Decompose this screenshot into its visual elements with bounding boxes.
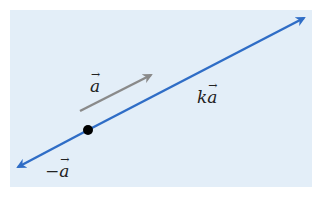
scaled-vector-line <box>18 18 304 167</box>
label-k-vector-a: ka <box>197 89 217 106</box>
label-vector-a: a <box>90 78 100 95</box>
label-negative-vector-a: −a <box>45 163 69 180</box>
origin-point <box>83 125 93 135</box>
